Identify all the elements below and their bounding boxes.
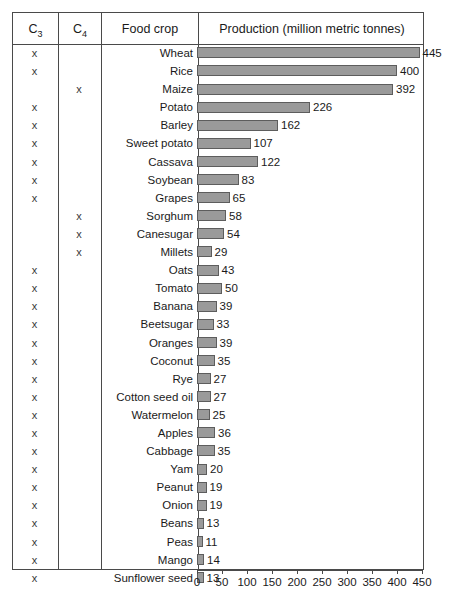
cell-crop-name: Mango — [101, 551, 193, 569]
cell-c4-mark — [58, 134, 100, 152]
production-bar — [197, 536, 203, 547]
column-header-c4-subscript: 4 — [82, 29, 87, 39]
cell-crop-name: Barley — [101, 116, 193, 134]
x-axis-tick — [372, 570, 373, 574]
cell-c4-mark — [58, 388, 100, 406]
table-row: xBeans13 — [12, 514, 462, 532]
cell-c3-mark: x — [12, 496, 57, 514]
production-bar — [197, 47, 420, 58]
production-bar — [197, 120, 278, 131]
cell-c4-mark — [58, 424, 100, 442]
x-axis-tick — [197, 570, 198, 574]
production-bar — [197, 500, 207, 511]
cell-c3-mark: x — [12, 171, 57, 189]
production-value-label: 33 — [217, 315, 230, 333]
table-row: xMaize392 — [12, 80, 462, 98]
x-axis-tick — [422, 570, 423, 574]
cell-c4-mark: x — [58, 207, 100, 225]
production-bar — [197, 518, 204, 529]
cell-c4-mark — [58, 315, 100, 333]
production-bar — [197, 464, 207, 475]
cell-crop-name: Cabbage — [101, 442, 193, 460]
production-bar — [197, 192, 230, 203]
production-bar — [197, 265, 219, 276]
production-bar — [197, 246, 212, 257]
production-value-label: 445 — [423, 44, 442, 62]
cell-c4-mark — [58, 406, 100, 424]
production-bar — [197, 301, 217, 312]
column-header-production: Production (million metric tonnes) — [199, 13, 425, 45]
x-axis-tick-label: 50 — [216, 576, 229, 588]
cell-crop-name: Peanut — [101, 478, 193, 496]
table-row: xYam20 — [12, 460, 462, 478]
cell-c3-mark: x — [12, 388, 57, 406]
table-row: xBeetsugar33 — [12, 315, 462, 333]
cell-crop-name: Rye — [101, 370, 193, 388]
cell-crop-name: Grapes — [101, 189, 193, 207]
cell-crop-name: Maize — [101, 80, 193, 98]
cell-c4-mark — [58, 460, 100, 478]
column-header-c3-label: C — [28, 22, 37, 36]
table-row: xBarley162 — [12, 116, 462, 134]
production-value-label: 54 — [227, 225, 240, 243]
production-bar — [197, 283, 222, 294]
production-value-label: 58 — [229, 207, 242, 225]
cell-crop-name: Cassava — [101, 153, 193, 171]
cell-c3-mark: x — [12, 279, 57, 297]
cell-c4-mark — [58, 569, 100, 587]
cell-c4-mark — [58, 442, 100, 460]
production-bar — [197, 319, 214, 330]
cell-c3-mark: x — [12, 44, 57, 62]
cell-c3-mark: x — [12, 424, 57, 442]
table-row: xCoconut35 — [12, 352, 462, 370]
production-value-label: 43 — [222, 261, 235, 279]
cell-c4-mark — [58, 334, 100, 352]
cell-c4-mark — [58, 533, 100, 551]
production-value-label: 29 — [215, 243, 228, 261]
x-axis-tick-label: 400 — [387, 576, 406, 588]
cell-c3-mark: x — [12, 406, 57, 424]
production-bar — [197, 156, 258, 167]
production-value-label: 122 — [261, 153, 280, 171]
cell-c4-mark — [58, 44, 100, 62]
cell-c4-mark — [58, 62, 100, 80]
production-bar — [197, 482, 207, 493]
cell-crop-name: Onion — [101, 496, 193, 514]
column-header-c3-subscript: 3 — [38, 29, 43, 39]
table-row: xMango14 — [12, 551, 462, 569]
table-row: xApples36 — [12, 424, 462, 442]
table-body: xWheat445xRice400xMaize392xPotato226xBar… — [12, 44, 462, 570]
cell-crop-name: Soybean — [101, 171, 193, 189]
cell-c4-mark — [58, 496, 100, 514]
production-bar — [197, 554, 204, 565]
cell-c3-mark: x — [12, 62, 57, 80]
production-value-label: 13 — [207, 514, 220, 532]
cell-c4-mark — [58, 189, 100, 207]
cell-c3-mark — [12, 243, 57, 261]
table-row: xMillets29 — [12, 243, 462, 261]
table-row: xCabbage35 — [12, 442, 462, 460]
production-bar — [197, 427, 215, 438]
cell-crop-name: Millets — [101, 243, 193, 261]
cell-crop-name: Peas — [101, 533, 193, 551]
x-axis-tick — [222, 570, 223, 574]
table-row: xSorghum58 — [12, 207, 462, 225]
table-row: xPeanut19 — [12, 478, 462, 496]
cell-c4-mark — [58, 279, 100, 297]
table-row: xTomato50 — [12, 279, 462, 297]
x-axis-tick-label: 350 — [362, 576, 381, 588]
cell-crop-name: Coconut — [101, 352, 193, 370]
production-value-label: 83 — [242, 171, 255, 189]
x-axis-tick — [347, 570, 348, 574]
production-bar — [197, 210, 226, 221]
x-axis-tick — [322, 570, 323, 574]
production-value-label: 65 — [233, 189, 246, 207]
production-value-label: 19 — [210, 478, 223, 496]
production-value-label: 19 — [210, 496, 223, 514]
column-header-food-crop: Food crop — [102, 13, 198, 45]
table-row: xOnion19 — [12, 496, 462, 514]
x-axis-tick-label: 150 — [262, 576, 281, 588]
production-value-label: 392 — [396, 80, 415, 98]
x-axis-line — [197, 570, 422, 571]
production-value-label: 14 — [207, 551, 220, 569]
